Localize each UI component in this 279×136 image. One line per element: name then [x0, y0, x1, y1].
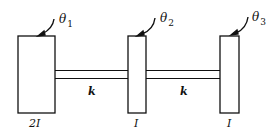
shaft-2-stiffness-label: k	[180, 85, 188, 98]
theta-3-label: θ3	[252, 10, 266, 27]
shaft-1-stiffness-label: k	[88, 85, 96, 98]
disk-3-inertia-label: I	[226, 117, 232, 130]
disk-2	[128, 36, 146, 113]
theta-1-arrow-icon	[38, 19, 54, 36]
disk-1	[18, 36, 55, 113]
shaft-2	[146, 71, 220, 79]
disk-2-inertia-label: I	[133, 117, 139, 130]
theta-2-label: θ2	[160, 11, 174, 28]
torsional-system-diagram: θ1 θ2 θ3 k k 2I I I	[0, 0, 279, 136]
disk-1-inertia-label: 2I	[28, 117, 41, 130]
shaft-1	[55, 71, 128, 79]
theta-2-arrow-icon	[137, 18, 155, 36]
theta-1-label: θ1	[59, 12, 73, 29]
theta-3-arrow-icon	[231, 17, 248, 35]
disk-3	[220, 36, 239, 113]
